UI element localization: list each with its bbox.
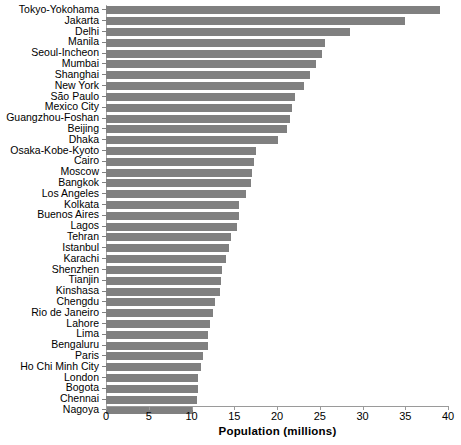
population-bar-chart: Tokyo-YokohamaJakartaDelhiManilaSeoul-In… — [0, 0, 461, 445]
bar — [106, 331, 208, 339]
bar-row: Osaka-Kobe-Kyoto — [106, 146, 448, 157]
bar — [106, 115, 290, 123]
bar-row: Tokyo-Yokohama — [106, 5, 448, 16]
bar-row: Bogota — [106, 383, 448, 394]
x-axis-title: Population (millions) — [106, 425, 449, 437]
bar — [106, 39, 325, 47]
bar — [106, 320, 210, 328]
x-tick-label: 10 — [185, 410, 197, 422]
bar-row: Lagos — [106, 221, 448, 232]
bar — [106, 255, 226, 263]
bar-row: Kinshasa — [106, 286, 448, 297]
x-tick-label: 15 — [228, 410, 240, 422]
bar — [106, 385, 198, 393]
bar-row: Beijing — [106, 124, 448, 135]
bar — [106, 82, 304, 90]
bar — [106, 6, 440, 14]
bar — [106, 223, 237, 231]
x-tick-label: 25 — [314, 410, 326, 422]
bar — [106, 17, 405, 25]
bar — [106, 201, 239, 209]
bar — [106, 396, 197, 404]
bar — [106, 125, 287, 133]
bar-row: Mumbai — [106, 59, 448, 70]
bar — [106, 147, 256, 155]
x-tick-label: 30 — [356, 410, 368, 422]
bar-row: Bangkok — [106, 178, 448, 189]
bar — [106, 277, 221, 285]
bar-row: Shenzhen — [106, 265, 448, 276]
bar-row: Bengaluru — [106, 340, 448, 351]
plot-area: Tokyo-YokohamaJakartaDelhiManilaSeoul-In… — [106, 5, 448, 406]
bar — [106, 352, 203, 360]
x-tick-label: 35 — [399, 410, 411, 422]
bar-row: Delhi — [106, 27, 448, 38]
x-tick-label: 0 — [103, 410, 109, 422]
bar-row: Karachi — [106, 254, 448, 265]
bar-row: Lima — [106, 329, 448, 340]
bar — [106, 50, 322, 58]
bar-row: Shanghai — [106, 70, 448, 81]
bar-row: New York — [106, 81, 448, 92]
bar — [106, 136, 278, 144]
bar — [106, 28, 350, 36]
bar-row: Istanbul — [106, 243, 448, 254]
bar — [106, 212, 239, 220]
bar — [106, 104, 292, 112]
bar-row: Tehran — [106, 232, 448, 243]
bar-row: Buenos Aires — [106, 210, 448, 221]
bar-row: Jakarta — [106, 16, 448, 27]
bar — [106, 233, 231, 241]
bar — [106, 342, 208, 350]
bar-row: Seoul-Incheon — [106, 48, 448, 59]
bar-row: Dhaka — [106, 135, 448, 146]
bar — [106, 374, 198, 382]
bar-row: Tianjin — [106, 275, 448, 286]
bar — [106, 288, 220, 296]
bar — [106, 60, 316, 68]
bar — [106, 363, 201, 371]
bar-row: Kolkata — [106, 200, 448, 211]
bar-row: Moscow — [106, 167, 448, 178]
x-tick-label: 40 — [442, 410, 454, 422]
bar-row: Guangzhou-Foshan — [106, 113, 448, 124]
bar — [106, 179, 251, 187]
bar-row: Manila — [106, 37, 448, 48]
bar — [106, 244, 229, 252]
x-tick-label: 5 — [146, 410, 152, 422]
bar-row: Chengdu — [106, 297, 448, 308]
bar-row: Mexico City — [106, 102, 448, 113]
bar-row: São Paulo — [106, 92, 448, 103]
bar — [106, 309, 213, 317]
bar-row: Ho Chi Minh City — [106, 362, 448, 373]
category-label: Nagoya — [63, 404, 99, 415]
bar — [106, 158, 254, 166]
bar — [106, 266, 222, 274]
bar-row: Los Angeles — [106, 189, 448, 200]
bar-row: Paris — [106, 351, 448, 362]
bar-row: Rio de Janeiro — [106, 308, 448, 319]
bar — [106, 169, 252, 177]
bar-row: London — [106, 373, 448, 384]
x-tick-label: 20 — [271, 410, 283, 422]
bar — [106, 298, 215, 306]
bar — [106, 190, 246, 198]
bar-row: Chennai — [106, 394, 448, 405]
bar — [106, 71, 310, 79]
bar-row: Cairo — [106, 156, 448, 167]
bar-row: Lahore — [106, 319, 448, 330]
bar — [106, 93, 295, 101]
